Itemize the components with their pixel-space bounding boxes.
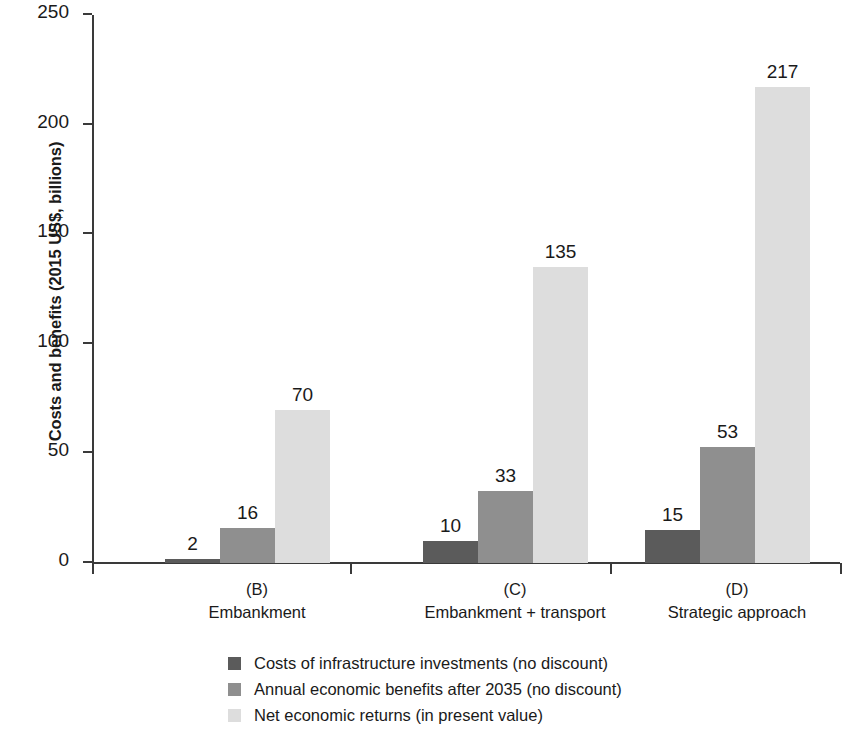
y-tick-label: 100 xyxy=(37,330,69,352)
bar-value-label: 10 xyxy=(440,515,461,537)
bar-value-label: 2 xyxy=(187,533,198,555)
y-tick-label: 250 xyxy=(37,1,69,23)
x-group-label-0: (B)Embankment xyxy=(208,578,305,624)
x-tick-3 xyxy=(840,563,842,574)
bar-value-label: 217 xyxy=(767,61,799,83)
bar-value-label: 15 xyxy=(662,504,683,526)
bar-g2-s2[interactable]: 217 xyxy=(755,87,810,563)
bar-g0-s2[interactable]: 70 xyxy=(275,410,330,563)
y-tick-250: 250 xyxy=(83,13,92,15)
legend-item-1[interactable]: Annual economic benefits after 2035 (no … xyxy=(228,676,622,702)
x-group-label-2: (D)Strategic approach xyxy=(668,578,807,624)
bar-g2-s0[interactable]: 15 xyxy=(645,530,700,563)
x-tick-2 xyxy=(610,563,612,574)
legend-swatch-icon xyxy=(228,709,241,722)
legend-item-2[interactable]: Net economic returns (in present value) xyxy=(228,702,622,728)
bar-value-label: 70 xyxy=(292,384,313,406)
y-tick-label: 150 xyxy=(37,221,69,243)
x-group-name: Embankment + transport xyxy=(424,601,605,624)
x-group-code: (D) xyxy=(668,578,807,601)
bar-g1-s1[interactable]: 33 xyxy=(478,491,533,563)
x-group-name: Strategic approach xyxy=(668,601,807,624)
bar-value-label: 53 xyxy=(717,421,738,443)
legend-label: Annual economic benefits after 2035 (no … xyxy=(254,680,622,699)
bar-value-label: 33 xyxy=(495,465,516,487)
y-axis-line xyxy=(92,15,94,564)
legend-item-0[interactable]: Costs of infrastructure investments (no … xyxy=(228,650,622,676)
bar-chart-figure: Costs and benefits (2015 US$, billions) … xyxy=(0,0,860,735)
y-tick-label: 200 xyxy=(37,111,69,133)
y-tick-200: 200 xyxy=(83,123,92,125)
y-tick-0: 0 xyxy=(83,561,92,563)
legend-label: Net economic returns (in present value) xyxy=(254,706,543,725)
bar-g1-s2[interactable]: 135 xyxy=(533,267,588,563)
y-tick-100: 100 xyxy=(83,342,92,344)
bar-value-label: 135 xyxy=(545,241,577,263)
legend-label: Costs of infrastructure investments (no … xyxy=(254,654,608,673)
bar-value-label: 16 xyxy=(237,502,258,524)
y-tick-label: 50 xyxy=(48,440,69,462)
legend-swatch-icon xyxy=(228,657,241,670)
plot-area: 050100150200250 2167010331351553217 xyxy=(92,15,840,563)
bar-g1-s0[interactable]: 10 xyxy=(423,541,478,563)
bar-g0-s1[interactable]: 16 xyxy=(220,528,275,563)
y-axis-title: Costs and benefits (2015 US$, billions) xyxy=(46,12,65,572)
y-tick-label: 0 xyxy=(58,549,69,571)
x-group-name: Embankment xyxy=(208,601,305,624)
x-tick-1 xyxy=(350,563,352,574)
x-group-code: (B) xyxy=(208,578,305,601)
bar-g2-s1[interactable]: 53 xyxy=(700,447,755,563)
y-tick-150: 150 xyxy=(83,232,92,234)
x-group-code: (C) xyxy=(424,578,605,601)
chart-legend: Costs of infrastructure investments (no … xyxy=(228,650,622,728)
legend-swatch-icon xyxy=(228,683,241,696)
bar-g0-s0[interactable]: 2 xyxy=(165,559,220,563)
y-tick-50: 50 xyxy=(83,451,92,453)
x-group-label-1: (C)Embankment + transport xyxy=(424,578,605,624)
x-tick-0 xyxy=(92,563,94,574)
